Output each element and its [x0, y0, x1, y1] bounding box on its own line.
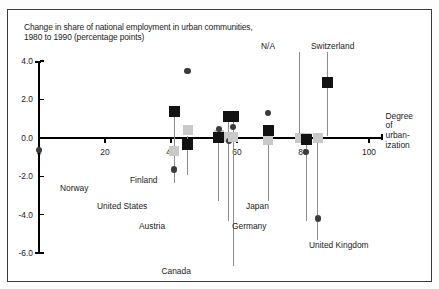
country-label-united_states: United States: [97, 201, 147, 211]
y-tick-label-4: -4.0: [3, 210, 33, 220]
country-label-canada: Canada: [162, 266, 191, 276]
leader-line: [218, 136, 219, 201]
y-tick-label-2: 0.0: [3, 133, 33, 143]
country-label-switzerland: Switzerland: [311, 41, 354, 51]
x-axis-line: [39, 137, 382, 139]
marker-dark-square-finland: [182, 139, 193, 150]
y-axis-line: [38, 61, 40, 253]
y-tick-mark: [40, 176, 44, 177]
country-label-austria: Austria: [139, 221, 165, 231]
marker-light-square-canada: [228, 132, 238, 142]
x-axis-title-line: ization: [386, 141, 413, 151]
chart-screenshot: Change in share of national employment i…: [0, 0, 439, 289]
country-label-norway: Norway: [60, 183, 88, 193]
y-tick-label-5: -6.0: [3, 248, 33, 258]
leader-line: [317, 136, 318, 240]
x-tick-mark: [104, 139, 105, 143]
y-tick-label-0: 4.0: [3, 56, 33, 66]
marker-circle-finland: [184, 68, 190, 74]
marker-dark-square-switzerland: [322, 77, 333, 88]
marker-dark-square-germany: [301, 134, 312, 145]
country-label-finland: Finland: [130, 175, 157, 185]
x-tick-mark: [368, 139, 369, 143]
y-tick-mark: [40, 214, 44, 215]
country-label-germany: Germany: [232, 221, 266, 231]
chart-title-line-1: Change in share of national employment i…: [24, 22, 253, 32]
leader-line: [299, 52, 300, 136]
marker-dark-square-norway: [169, 106, 180, 117]
marker-light-square-finland: [183, 125, 193, 135]
country-label-japan: Japan: [246, 201, 269, 211]
x-tick-mark: [38, 139, 39, 143]
marker-light-square-norway: [169, 146, 179, 156]
x-axis-end-cap: [381, 134, 383, 140]
y-tick-mark: [40, 252, 44, 253]
country-label-united_kingdom: United Kingdom: [309, 240, 369, 250]
marker-light-square-japan: [263, 135, 273, 145]
y-tick-label-3: -2.0: [3, 171, 33, 181]
marker-light-square-united-kingdom: [313, 133, 323, 143]
y-tick-mark: [40, 99, 44, 100]
marker-dark-square-canada: [228, 111, 239, 122]
marker-dark-square-united-states: [213, 132, 224, 143]
marker-circle-canada: [230, 124, 236, 130]
marker-circle-japan: [265, 110, 271, 116]
x-tick-label-5: 100: [356, 147, 382, 157]
x-axis-title: Degreeofurban-ization: [386, 112, 413, 150]
x-tick-mark: [170, 139, 171, 143]
marker-dark-square-japan: [263, 125, 274, 136]
chart-frame: Change in share of national employment i…: [7, 9, 432, 282]
marker-circle-norway: [171, 166, 177, 172]
chart-title-line-2: 1980 to 1990 (percentage points): [24, 32, 144, 42]
leader-line: [228, 115, 229, 221]
leader-line: [327, 52, 328, 136]
marker-circle-united-kingdom: [315, 215, 321, 221]
y-tick-label-1: 2.0: [3, 94, 33, 104]
country-label-na: N/A: [261, 41, 275, 51]
x-tick-label-1: 20: [92, 147, 118, 157]
y-tick-mark: [40, 60, 44, 61]
